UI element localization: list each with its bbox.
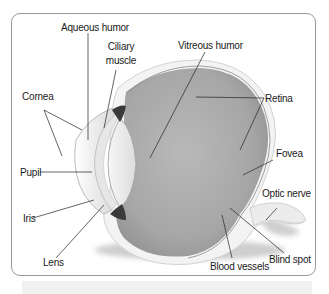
label-fovea: Fovea: [276, 148, 303, 159]
label-blind-spot: Blind spot: [269, 254, 311, 265]
label-ciliary-muscle-line1: Ciliary: [106, 41, 136, 52]
label-vitreous-humor: Vitreous humor: [178, 40, 243, 51]
label-iris: Iris: [23, 213, 36, 224]
label-cornea: Cornea: [22, 91, 54, 102]
eye-diagram: [0, 0, 329, 294]
label-blood-vessels: Blood vessels: [210, 261, 269, 272]
label-retina: Retina: [265, 93, 293, 104]
label-pupil: Pupil: [20, 167, 41, 178]
label-aqueous-humor: Aqueous humor: [61, 22, 129, 33]
label-lens: Lens: [43, 257, 64, 268]
label-ciliary-muscle-line2: muscle: [104, 55, 138, 66]
label-optic-nerve: Optic nerve: [262, 188, 311, 199]
